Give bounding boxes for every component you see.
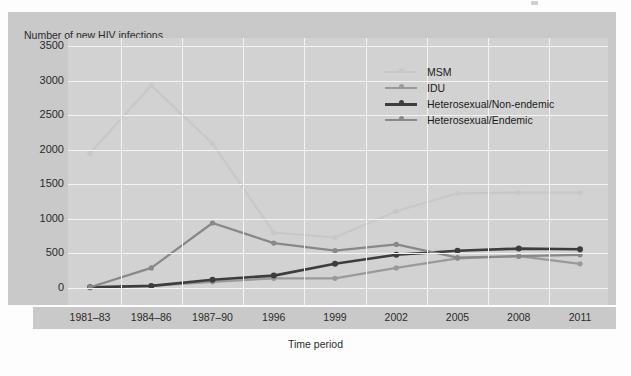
- data-point-marker: [455, 191, 460, 196]
- data-point-marker: [577, 246, 583, 252]
- data-point-marker: [271, 273, 277, 279]
- x-axis-tick-label: 2008: [484, 311, 554, 323]
- gridline-vertical: [488, 38, 489, 305]
- data-point-marker: [149, 265, 154, 270]
- data-point-marker: [210, 277, 216, 283]
- y-axis-tick-label: 2500: [8, 108, 64, 120]
- data-point-marker: [516, 190, 521, 195]
- plot-area: [68, 38, 608, 305]
- data-point-marker: [210, 220, 215, 225]
- gridline-vertical: [182, 38, 183, 305]
- data-point-marker: [87, 151, 92, 156]
- data-point-marker: [455, 255, 460, 260]
- data-point-marker: [577, 190, 582, 195]
- data-point-marker: [271, 230, 276, 235]
- x-axis-tick-label: 2005: [423, 311, 493, 323]
- gridline-vertical: [366, 38, 367, 305]
- legend-item-label: MSM: [427, 64, 452, 80]
- data-point-marker: [516, 246, 522, 252]
- gridline-horizontal: [68, 46, 608, 47]
- y-axis-tick-label: 1500: [8, 177, 64, 189]
- y-axis-tick-label: 0: [8, 281, 64, 293]
- data-point-marker: [210, 141, 215, 146]
- data-point-marker: [332, 235, 337, 240]
- data-point-marker: [394, 242, 399, 247]
- legend-item-label: Heterosexual/Endemic: [427, 112, 533, 128]
- gridline-vertical: [304, 38, 305, 305]
- x-axis-tick-label: 2011: [545, 311, 615, 323]
- gridline-horizontal: [68, 219, 608, 220]
- legend-marker-icon: [399, 68, 404, 73]
- legend-item-label: Heterosexual/Non-endemic: [427, 96, 554, 112]
- page-artifact-speck: [531, 1, 538, 5]
- gridline-horizontal: [68, 288, 608, 289]
- data-point-marker: [149, 83, 154, 88]
- data-point-marker: [394, 265, 399, 270]
- data-point-marker: [332, 261, 338, 267]
- gridline-horizontal: [68, 184, 608, 185]
- legend-marker-icon: [399, 100, 404, 105]
- x-axis-title: Time period: [0, 338, 631, 350]
- data-point-marker: [332, 276, 337, 281]
- x-axis-tick-label: 2002: [361, 311, 431, 323]
- y-axis-tick-label: 1000: [8, 212, 64, 224]
- gridline-vertical: [549, 38, 550, 305]
- gridline-vertical: [121, 38, 122, 305]
- legend-item-label: IDU: [427, 80, 445, 96]
- x-axis-band: 1981–831984–861987–901996199920022005200…: [33, 307, 616, 329]
- y-axis-tick-label: 3000: [8, 74, 64, 86]
- data-point-marker: [577, 261, 582, 266]
- x-axis-tick-label: 1981–83: [55, 311, 125, 323]
- y-axis-tick-label: 3500: [8, 39, 64, 51]
- gridline-vertical: [243, 38, 244, 305]
- x-axis-tick-label: 1996: [239, 311, 309, 323]
- legend-marker-icon: [399, 116, 404, 121]
- x-axis-tick-label: 1999: [300, 311, 370, 323]
- x-axis-tick-label: 1984–86: [116, 311, 186, 323]
- data-point-marker: [271, 241, 276, 246]
- chart-figure: Number of new HIV infections 35003000250…: [0, 0, 631, 376]
- x-axis-tick-label: 1987–90: [178, 311, 248, 323]
- data-point-marker: [394, 209, 399, 214]
- legend-marker-icon: [399, 84, 404, 89]
- gridline-horizontal: [68, 81, 608, 82]
- gridline-horizontal: [68, 150, 608, 151]
- series-lines: [68, 38, 608, 305]
- y-axis-tick-label: 2000: [8, 143, 64, 155]
- gridline-horizontal: [68, 253, 608, 254]
- y-axis-tick-label: 500: [8, 246, 64, 258]
